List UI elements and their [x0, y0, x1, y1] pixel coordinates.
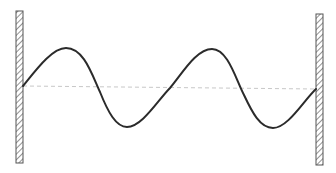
wave-curve — [23, 48, 316, 128]
right-wall — [316, 14, 323, 165]
left-wall — [16, 11, 23, 163]
standing-wave-diagram — [0, 0, 336, 173]
